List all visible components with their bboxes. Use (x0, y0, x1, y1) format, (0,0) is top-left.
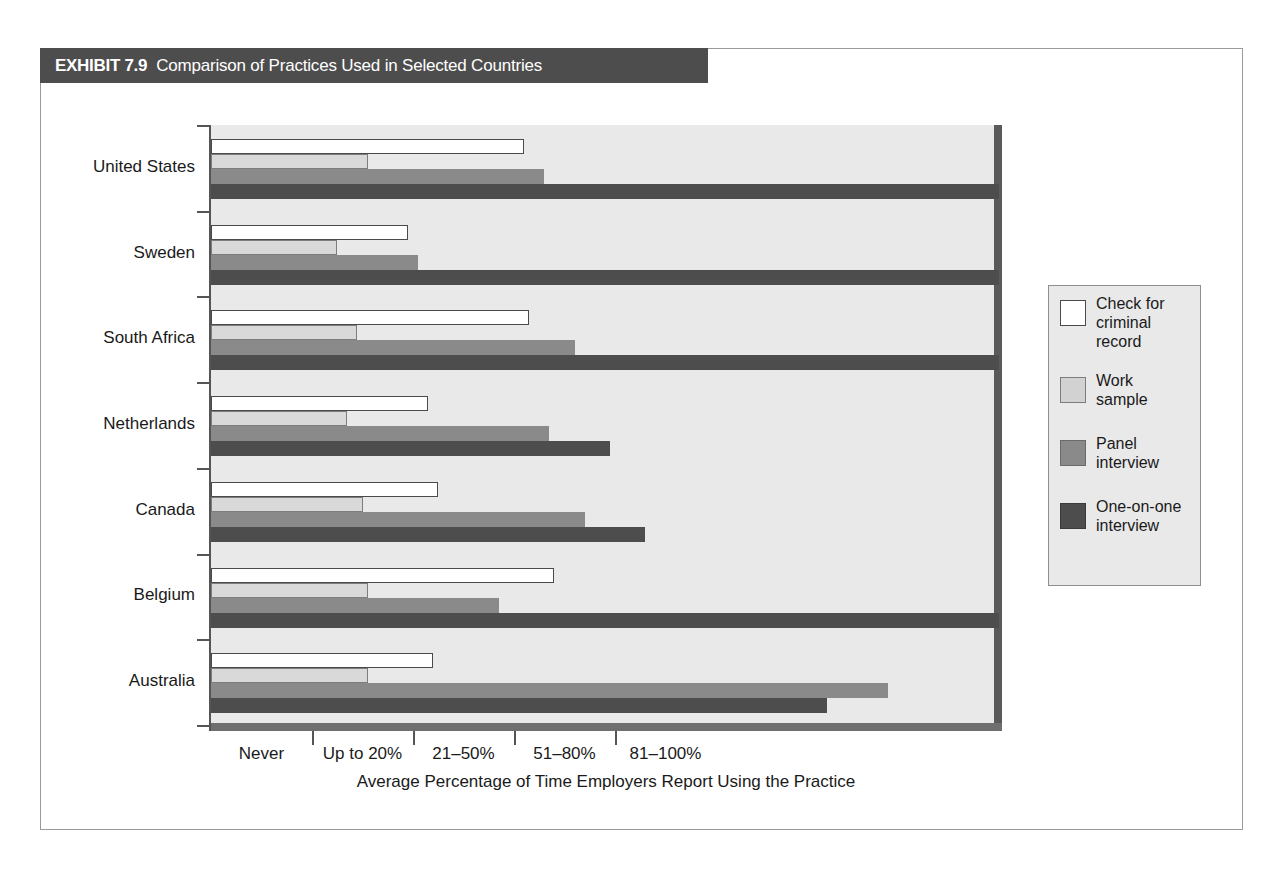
legend-swatch (1060, 377, 1086, 403)
chart-legend: Check forcriminalrecordWorksamplePanelin… (1048, 285, 1201, 586)
bar (211, 441, 610, 456)
legend-label: One-on-oneinterview (1096, 497, 1181, 535)
bar (211, 512, 585, 527)
bar (211, 482, 438, 497)
x-axis-tick (312, 731, 314, 745)
x-axis-tick-label: Up to 20% (323, 744, 402, 764)
legend-swatch (1060, 503, 1086, 529)
legend-swatch (1060, 440, 1086, 466)
bar (211, 613, 999, 628)
country-label: United States (35, 157, 195, 177)
x-axis-tick-label: Never (239, 744, 284, 764)
bar-group (211, 125, 1001, 211)
bar-group (211, 211, 1001, 297)
y-axis-tick (197, 725, 209, 727)
bar (211, 527, 645, 542)
legend-item[interactable]: Check forcriminalrecord (1060, 294, 1164, 351)
y-axis-tick (197, 211, 209, 213)
bar (211, 411, 347, 426)
bar-group (211, 639, 1001, 725)
bar (211, 653, 433, 668)
bar (211, 698, 827, 713)
legend-swatch (1060, 300, 1086, 326)
x-axis-tick-label: 81–100% (630, 744, 702, 764)
bar (211, 497, 363, 512)
exhibit-header-band: EXHIBIT 7.9 Comparison of Practices Used… (40, 48, 708, 83)
country-label: Sweden (35, 243, 195, 263)
exhibit-number: EXHIBIT 7.9 (55, 56, 147, 76)
bar (211, 583, 368, 598)
y-axis-tick (197, 554, 209, 556)
legend-item[interactable]: One-on-oneinterview (1060, 497, 1181, 535)
bar (211, 169, 544, 184)
bar (211, 154, 368, 169)
x-axis-tick-label: 21–50% (432, 744, 494, 764)
legend-label: Check forcriminalrecord (1096, 294, 1164, 351)
country-label: Canada (35, 500, 195, 520)
bar (211, 139, 524, 154)
x-axis-tick (514, 731, 516, 745)
bar-group (211, 382, 1001, 468)
exhibit-page: EXHIBIT 7.9 Comparison of Practices Used… (0, 0, 1280, 882)
x-axis-tick (615, 731, 617, 745)
bar-group (211, 296, 1001, 382)
y-axis-tick (197, 296, 209, 298)
y-axis-tick (197, 468, 209, 470)
legend-label: Panelinterview (1096, 434, 1159, 472)
legend-item[interactable]: Panelinterview (1060, 434, 1159, 472)
x-axis-tick-label: 51–80% (533, 744, 595, 764)
x-axis-title: Average Percentage of Time Employers Rep… (211, 772, 1001, 792)
bar (211, 668, 368, 683)
bar (211, 396, 428, 411)
bar (211, 310, 529, 325)
bar (211, 598, 499, 613)
bar (211, 426, 549, 441)
bar (211, 568, 554, 583)
country-label: Netherlands (35, 414, 195, 434)
y-axis-tick (197, 125, 209, 127)
country-label: Belgium (35, 585, 195, 605)
bar (211, 240, 337, 255)
bar (211, 255, 418, 270)
country-label: Australia (35, 671, 195, 691)
bar (211, 340, 575, 355)
bar-group (211, 468, 1001, 554)
bar-group (211, 554, 1001, 640)
bar (211, 184, 999, 199)
bar (211, 355, 999, 370)
exhibit-title: Comparison of Practices Used in Selected… (156, 56, 542, 76)
bar (211, 325, 357, 340)
bar (211, 270, 999, 285)
legend-label: Worksample (1096, 371, 1148, 409)
y-axis-tick (197, 639, 209, 641)
bar (211, 683, 888, 698)
x-axis-tick (413, 731, 415, 745)
legend-item[interactable]: Worksample (1060, 371, 1148, 409)
y-axis-tick (197, 382, 209, 384)
bar (211, 225, 408, 240)
country-label: South Africa (35, 328, 195, 348)
